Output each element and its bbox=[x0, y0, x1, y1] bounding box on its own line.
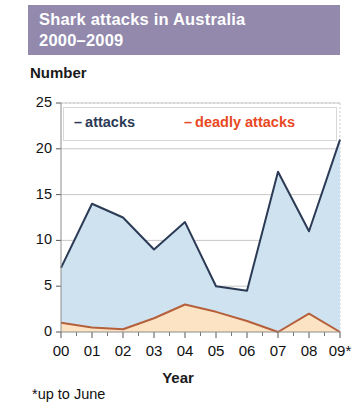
x-tick-label: 05 bbox=[200, 342, 232, 359]
area-fill-attacks bbox=[61, 140, 340, 332]
y-tick-label: 25 bbox=[18, 94, 52, 110]
y-tick-label: 0 bbox=[18, 323, 52, 339]
y-tick-label: 5 bbox=[18, 277, 52, 293]
legend-label-attacks: attacks bbox=[85, 114, 135, 130]
x-tick-label: 08 bbox=[293, 342, 325, 359]
x-tick-label: 03 bbox=[138, 342, 170, 359]
x-tick-label: 07 bbox=[262, 342, 294, 359]
series-group bbox=[61, 140, 340, 332]
chart-legend: –attacks –deadly attacks bbox=[63, 107, 337, 141]
x-axis-title: Year bbox=[0, 369, 356, 386]
y-tick-label: 20 bbox=[18, 140, 52, 156]
legend-dash-icon: – bbox=[74, 114, 82, 130]
legend-dash-icon: – bbox=[184, 114, 192, 130]
x-tick-label: 06 bbox=[231, 342, 263, 359]
x-tick-label: 02 bbox=[107, 342, 139, 359]
x-tick-label: 01 bbox=[76, 342, 108, 359]
x-tick-label: 00 bbox=[45, 342, 77, 359]
legend-label-deadly-attacks: deadly attacks bbox=[195, 114, 295, 130]
chart-footnote: *up to June bbox=[32, 386, 105, 402]
x-tick-label: 09* bbox=[324, 342, 356, 359]
x-tick-label: 04 bbox=[169, 342, 201, 359]
legend-item-deadly-attacks: –deadly attacks bbox=[184, 114, 295, 130]
y-tick-label: 15 bbox=[18, 186, 52, 202]
y-tick-label: 10 bbox=[18, 231, 52, 247]
legend-item-attacks: –attacks bbox=[74, 114, 135, 130]
